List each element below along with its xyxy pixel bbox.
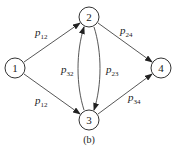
node-3: 3 <box>79 110 99 130</box>
node-4: 4 <box>151 58 171 78</box>
edge-3-4 <box>98 74 152 114</box>
edge-label-3-2: p32 <box>60 63 74 78</box>
edge-label-3-4: p34 <box>127 91 141 106</box>
edge-label-1-3: p12 <box>34 94 48 109</box>
edge-1-3 <box>24 74 80 114</box>
svg-text:2: 2 <box>86 11 92 23</box>
node-2: 2 <box>79 7 99 27</box>
edge-label-2-4: p24 <box>119 24 133 39</box>
figure-caption: (b) <box>83 134 95 146</box>
edge-3-2 <box>78 27 84 110</box>
svg-text:3: 3 <box>86 114 92 126</box>
svg-text:1: 1 <box>12 62 18 74</box>
node-1: 1 <box>5 58 25 78</box>
edge-2-3 <box>94 27 100 110</box>
edge-label-1-2: p12 <box>34 26 48 41</box>
state-transition-diagram: p12 p12 p32 p23 p24 p34 1 2 3 4 (b) <box>0 0 175 146</box>
edge-1-2 <box>24 23 80 62</box>
edge-label-2-3: p23 <box>105 63 119 78</box>
svg-text:4: 4 <box>158 62 164 74</box>
